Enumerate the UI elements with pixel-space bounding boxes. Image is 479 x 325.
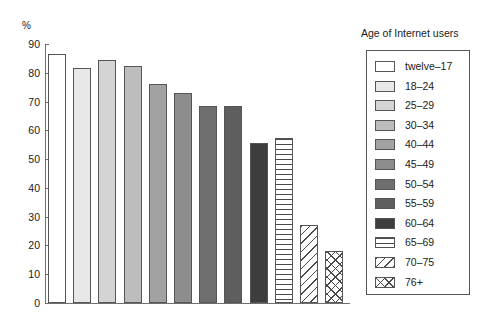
y-tick-label: 70: [0, 97, 40, 107]
bar-twelve-17[interactable]: [48, 54, 66, 303]
y-tick-mark: [45, 303, 49, 304]
plot-area: % 0102030405060708090: [0, 0, 360, 325]
y-tick-label: 90: [0, 39, 40, 49]
legend-item-label: 50–54: [405, 178, 434, 190]
legend-item[interactable]: 65–69: [375, 233, 467, 253]
legend-item-label: 76+: [405, 276, 423, 288]
legend: twelve–1718–2425–2930–3440–4445–4950–545…: [366, 50, 470, 295]
legend-swatch-icon: [375, 179, 395, 190]
legend-swatch-icon: [375, 218, 395, 229]
legend-item-label: 18–24: [405, 80, 434, 92]
legend-title: Age of Internet users: [361, 27, 458, 39]
x-axis-line: [45, 303, 350, 304]
legend-swatch-icon: [375, 61, 395, 72]
bar-series: [46, 44, 350, 303]
bar-55-59[interactable]: [224, 106, 242, 303]
bar-60-64[interactable]: [250, 143, 268, 303]
legend-item[interactable]: twelve–17: [375, 57, 467, 77]
bar-25-29[interactable]: [98, 60, 116, 303]
legend-item[interactable]: 40–44: [375, 135, 467, 155]
legend-swatch-icon: [375, 237, 395, 248]
bar-50-54[interactable]: [199, 106, 217, 303]
legend-swatch-icon: [375, 198, 395, 209]
legend-swatch-icon: [375, 159, 395, 170]
legend-item-label: 60–64: [405, 217, 434, 229]
legend-item-label: 40–44: [405, 138, 434, 150]
legend-item[interactable]: 25–29: [375, 96, 467, 116]
bar-70-75[interactable]: [300, 225, 318, 303]
bar-45-49[interactable]: [174, 93, 192, 303]
legend-item-label: 55–59: [405, 197, 434, 209]
legend-swatch-icon: [375, 277, 395, 288]
bar-65-69[interactable]: [275, 138, 293, 303]
y-tick-label: 60: [0, 125, 40, 135]
y-tick-label: 10: [0, 269, 40, 279]
legend-swatch-icon: [375, 100, 395, 111]
bar-30-34[interactable]: [124, 66, 142, 303]
legend-item[interactable]: 45–49: [375, 155, 467, 175]
bar-76-[interactable]: [325, 251, 343, 303]
legend-swatch-icon: [375, 257, 395, 268]
y-tick-label: 50: [0, 154, 40, 164]
bar-chart: % 0102030405060708090 Age of Internet us…: [0, 0, 479, 325]
legend-swatch-icon: [375, 120, 395, 131]
y-axis-unit-label: %: [22, 20, 31, 31]
y-tick-label: 0: [0, 298, 40, 308]
bar-18-24[interactable]: [73, 68, 91, 303]
legend-item[interactable]: 55–59: [375, 194, 467, 214]
legend-item[interactable]: 60–64: [375, 214, 467, 234]
y-tick-label: 40: [0, 183, 40, 193]
legend-item-label: twelve–17: [405, 60, 452, 72]
legend-item[interactable]: 18–24: [375, 77, 467, 97]
legend-item[interactable]: 30–34: [375, 116, 467, 136]
bar-40-44[interactable]: [149, 84, 167, 303]
legend-item-label: 65–69: [405, 236, 434, 248]
legend-item[interactable]: 76+: [375, 273, 467, 293]
y-tick-label: 20: [0, 240, 40, 250]
legend-item-label: 70–75: [405, 256, 434, 268]
legend-item[interactable]: 50–54: [375, 175, 467, 195]
y-tick-label: 80: [0, 68, 40, 78]
legend-item[interactable]: 70–75: [375, 253, 467, 273]
legend-item-label: 25–29: [405, 99, 434, 111]
legend-item-label: 30–34: [405, 119, 434, 131]
legend-swatch-icon: [375, 81, 395, 92]
legend-item-label: 45–49: [405, 158, 434, 170]
y-tick-label: 30: [0, 212, 40, 222]
legend-swatch-icon: [375, 139, 395, 150]
